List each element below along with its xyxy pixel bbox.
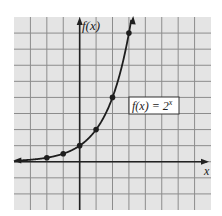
x-axis-label: x: [203, 164, 210, 178]
data-point: [110, 95, 116, 101]
data-point: [44, 155, 50, 161]
exponential-function-graph: f(x) x f(x) = 2x: [0, 0, 222, 216]
data-point: [93, 127, 99, 133]
function-label-base: f(x) = 2: [132, 99, 169, 113]
function-label-box: f(x) = 2x: [129, 97, 179, 114]
data-point: [60, 151, 66, 157]
data-point: [77, 143, 83, 149]
svg-text:f(x) = 2x: f(x) = 2x: [132, 98, 173, 113]
y-axis-label: f(x): [82, 18, 100, 33]
function-label-exponent: x: [168, 98, 173, 107]
data-point: [126, 30, 132, 36]
